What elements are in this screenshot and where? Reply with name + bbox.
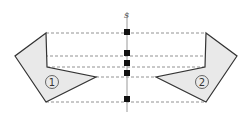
marker — [124, 96, 130, 102]
marker — [124, 50, 130, 56]
shape-2-label: 2 — [199, 77, 205, 88]
marker — [124, 60, 130, 66]
shape-2 — [156, 33, 237, 102]
marker — [124, 29, 130, 35]
axis-label: s — [124, 9, 129, 20]
shape-1-label: 1 — [49, 77, 55, 88]
shape-1 — [15, 33, 96, 102]
diagram-canvas: s 1 2 — [0, 0, 250, 115]
marker — [124, 70, 130, 76]
reflection-diagram: s 1 2 — [0, 0, 250, 115]
